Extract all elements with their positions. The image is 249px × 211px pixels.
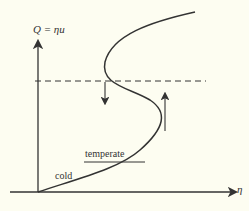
x-axis-label: η	[237, 183, 242, 195]
temperate-label: temperate	[85, 148, 125, 159]
s-curve	[38, 12, 195, 192]
s-curve-diagram: Q = ηu η temperate cold	[0, 0, 249, 211]
y-axis-label: Q = ηu	[33, 23, 65, 35]
diagram-canvas: Q = ηu η temperate cold	[0, 0, 249, 211]
cold-label: cold	[55, 170, 72, 181]
